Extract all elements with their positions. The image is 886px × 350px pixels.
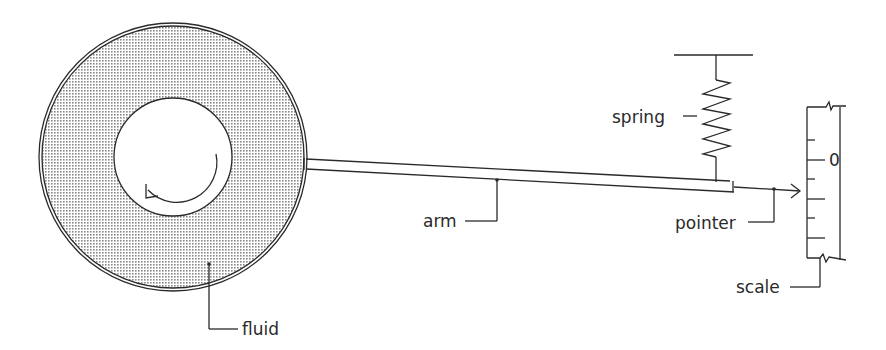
- viscometer-diagram: arm spring pointer 0 scale: [0, 0, 886, 350]
- pointer-label: pointer: [675, 213, 736, 233]
- fluid-label: fluid: [242, 319, 279, 339]
- spring: spring: [612, 55, 753, 182]
- arm-label: arm: [423, 211, 457, 231]
- arm-leader: arm: [423, 178, 499, 231]
- pointer: pointer: [675, 184, 800, 233]
- scale-zero-label: 0: [829, 150, 840, 170]
- spring-label: spring: [612, 107, 665, 127]
- inner-cylinder: [114, 98, 232, 216]
- arm: [304, 158, 734, 192]
- scale: 0 scale: [736, 102, 846, 297]
- scale-label: scale: [736, 277, 780, 297]
